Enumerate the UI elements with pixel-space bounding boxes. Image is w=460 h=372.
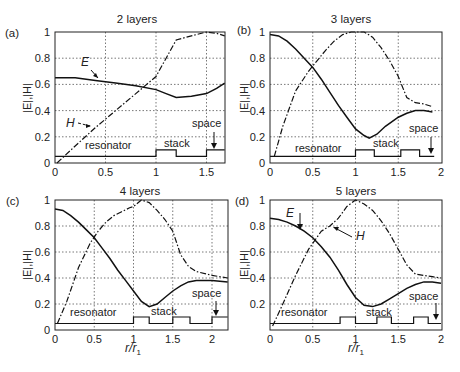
arrowhead-icon	[428, 148, 434, 154]
arrowhead-icon	[333, 227, 339, 231]
x-tick-label: 0.5	[305, 166, 320, 178]
panel-d-label: (d)	[235, 195, 249, 207]
panel-d-ylabel: |E|,|H|	[238, 250, 250, 280]
y-tick-label: 1	[259, 26, 265, 38]
panel-a-title: 2 layers	[117, 13, 158, 25]
y-tick-label: 0.8	[35, 220, 50, 232]
x-tick-label: 0.5	[305, 333, 320, 345]
x-tick-label: 0.5	[98, 166, 113, 178]
panel-c-ylabel: |E|,|H|	[21, 250, 33, 280]
panel-d: 5 layers (d) |E|,|H| 00.511.520.20.40.60…	[235, 185, 444, 357]
x-tick-label: 1.5	[199, 166, 214, 178]
x-tick-label: 1.5	[165, 333, 180, 345]
x-tick-label: 2	[209, 333, 215, 345]
arrowhead-icon	[211, 143, 217, 149]
panel-b-stack-label: stack	[373, 137, 399, 149]
panel-c-stack-label: stack	[151, 305, 177, 317]
x-tick-label: 1.5	[391, 166, 406, 178]
panel-a-index-profile	[55, 150, 225, 157]
y-tick-label: 0.6	[35, 78, 50, 90]
y-tick-label: 0.2	[250, 298, 265, 310]
x-tick-label: 2	[438, 166, 444, 178]
y-tick-label: 0.8	[250, 220, 265, 232]
panel-a-ylabel: |E|,|H|	[21, 83, 33, 113]
panel-c-h-curve	[57, 200, 227, 324]
x-tick-label: 1	[153, 166, 159, 178]
panel-a: 2 layers (a) |E|,|H| 00.511.500.20.40.60…	[5, 13, 225, 178]
x-tick-label: 0	[267, 166, 273, 178]
y-tick-label: 0.4	[250, 105, 265, 117]
x-tick-label: 0.5	[87, 333, 102, 345]
y-tick-label: 0.2	[35, 298, 50, 310]
x-tick-label: 0	[267, 333, 273, 345]
panel-d-ticks: 00.511.520.20.40.60.81	[250, 194, 444, 345]
y-tick-label: 0	[44, 324, 50, 336]
y-tick-label: 1	[259, 194, 265, 206]
y-tick-label: 0.8	[35, 52, 50, 64]
y-tick-label: 0.4	[250, 272, 265, 284]
y-tick-label: 0.2	[35, 131, 50, 143]
panel-d-xlabel: r/r1	[348, 341, 364, 357]
y-tick-label: 0	[259, 157, 265, 169]
panel-a-e-label: E	[81, 55, 90, 69]
panel-b: 3 layers (b) |E|,|H| 00.511.5200.20.40.6…	[237, 13, 444, 178]
x-tick-label: 2	[438, 333, 444, 345]
panel-a-h-curve	[57, 32, 225, 163]
y-tick-label: 0.6	[35, 246, 50, 258]
panel-d-space-label: space	[409, 290, 438, 302]
figure: 2 layers (a) |E|,|H| 00.511.500.20.40.60…	[0, 0, 460, 372]
y-tick-label: 0.2	[250, 131, 265, 143]
y-tick-label: 1	[44, 194, 50, 206]
panel-d-stack-label: stack	[366, 306, 392, 318]
panel-a-resonator-label: resonator	[85, 139, 132, 151]
panel-a-grid	[55, 32, 225, 163]
y-tick-label: 0.6	[250, 246, 265, 258]
panel-c-label: (c)	[6, 195, 20, 207]
panel-c-space-label: space	[192, 287, 221, 299]
panel-b-resonator-label: resonator	[295, 142, 342, 154]
arrowhead-icon	[213, 310, 219, 316]
panel-a-e-curve	[55, 78, 225, 98]
y-tick-label: 1	[44, 26, 50, 38]
y-tick-label: 0	[44, 157, 50, 169]
panel-b-ylabel: |E|,|H|	[238, 83, 250, 113]
panel-d-title: 5 layers	[336, 185, 377, 197]
y-tick-label: 0.8	[250, 52, 265, 64]
panel-a-frame	[55, 32, 225, 163]
panel-d-h-label: H	[356, 229, 365, 243]
y-tick-label: 0.6	[250, 78, 265, 90]
panel-b-label: (b)	[237, 24, 251, 36]
arrowhead-icon	[86, 124, 91, 128]
panel-c-ticks: 00.511.5200.20.40.60.81	[35, 194, 215, 345]
panel-d-e-label: E	[286, 206, 295, 220]
y-tick-label: 0.4	[35, 272, 50, 284]
panel-a-label: (a)	[5, 27, 19, 39]
panel-d-resonator-label: resonator	[281, 306, 328, 318]
panel-a-stack-label: stack	[164, 137, 190, 149]
panel-a-h-label: H	[66, 116, 75, 130]
panel-c-resonator-label: resonator	[70, 306, 117, 318]
panel-c-xlabel: r/r1	[125, 341, 141, 357]
arrowhead-icon	[433, 314, 439, 320]
panel-a-space-label: space	[192, 117, 221, 129]
x-tick-label: 1.5	[391, 333, 406, 345]
panel-b-title: 3 layers	[331, 13, 372, 25]
panel-b-space-label: space	[409, 122, 438, 134]
panel-a-ticks: 00.511.500.20.40.60.81	[35, 26, 214, 178]
x-tick-label: 1	[352, 166, 358, 178]
panel-c: 4 layers (c) |E|,|H| 00.511.5200.20.40.6…	[6, 185, 228, 357]
x-tick-label: 0	[52, 166, 58, 178]
y-tick-label: 0.4	[35, 105, 50, 117]
panel-c-title: 4 layers	[120, 185, 161, 197]
x-tick-label: 0	[52, 333, 58, 345]
